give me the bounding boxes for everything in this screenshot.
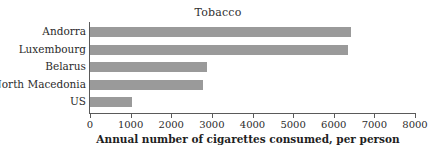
bar-row bbox=[90, 45, 415, 55]
x-tick-3000 bbox=[212, 114, 213, 118]
x-axis-title: Annual number of cigarettes consumed, pe… bbox=[60, 133, 436, 145]
bar-row bbox=[90, 27, 415, 37]
x-tick-7000 bbox=[374, 114, 375, 118]
y-axis-label-andorra: Andorra bbox=[0, 25, 86, 37]
x-tick-0 bbox=[90, 114, 91, 118]
y-axis-label-us: US bbox=[0, 95, 86, 107]
x-tick-4000 bbox=[253, 114, 254, 118]
bar-chart-figure: Tobacco AndorraLuxembourgBelarusNorth Ma… bbox=[0, 0, 436, 151]
bar-row bbox=[90, 80, 415, 90]
x-tick-1000 bbox=[131, 114, 132, 118]
y-axis-label-luxembourg: Luxembourg bbox=[0, 43, 86, 55]
chart-title: Tobacco bbox=[0, 6, 436, 19]
x-tick-8000 bbox=[415, 114, 416, 118]
bar-row bbox=[90, 97, 415, 107]
y-axis-label-north-macedonia: North Macedonia bbox=[0, 78, 86, 90]
x-tick-2000 bbox=[171, 114, 172, 118]
x-tick-6000 bbox=[334, 114, 335, 118]
bar-north-macedonia bbox=[90, 80, 203, 90]
bar-luxembourg bbox=[90, 45, 348, 55]
y-axis-label-belarus: Belarus bbox=[0, 60, 86, 72]
bar-belarus bbox=[90, 62, 207, 72]
bar-us bbox=[90, 97, 132, 107]
x-tick-5000 bbox=[293, 114, 294, 118]
x-tick-label-8000: 8000 bbox=[385, 119, 436, 130]
bar-andorra bbox=[90, 27, 351, 37]
bar-row bbox=[90, 62, 415, 72]
